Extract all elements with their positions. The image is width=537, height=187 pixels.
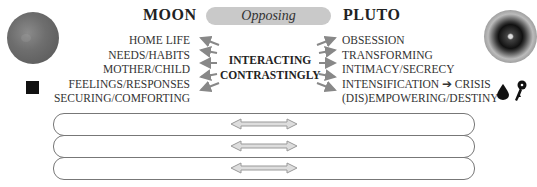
moon-icon xyxy=(7,12,59,64)
blank-bar xyxy=(53,113,475,136)
moon-keyword: MOTHER/CHILD xyxy=(54,62,190,77)
moon-keyword: SECURING/COMFORTING xyxy=(54,91,190,106)
opposing-label: Opposing xyxy=(206,7,331,25)
drop-icon xyxy=(497,84,509,100)
blank-bar xyxy=(53,135,475,158)
fan-arrows-icon xyxy=(195,33,345,105)
moon-keyword-list: HOME LIFE NEEDS/HABITS MOTHER/CHILD FEEL… xyxy=(54,33,190,106)
moon-keyword: FEELINGS/RESPONSES xyxy=(54,77,190,92)
key-icon xyxy=(513,80,527,102)
pluto-keyword: INTENSIFICATION ➔ CRISIS xyxy=(342,77,499,92)
pluto-keyword: TRANSFORMING xyxy=(342,48,499,63)
pluto-title: PLUTO xyxy=(343,6,400,24)
pluto-keyword: OBSESSION xyxy=(342,33,499,48)
moon-keyword: NEEDS/HABITS xyxy=(54,48,190,63)
pluto-keyword: (DIS)EMPOWERING/DESTINY xyxy=(342,91,499,106)
double-arrow-icon xyxy=(229,162,299,174)
moon-title: MOON xyxy=(143,6,197,24)
double-arrow-icon xyxy=(229,118,299,130)
moon-keyword: HOME LIFE xyxy=(54,33,190,48)
double-arrow-icon xyxy=(229,140,299,152)
blank-bar xyxy=(53,157,475,180)
pluto-keyword-list: OBSESSION TRANSFORMING INTIMACY/SECRECY … xyxy=(342,33,499,106)
black-square-icon xyxy=(26,81,39,94)
pluto-keyword: INTIMACY/SECRECY xyxy=(342,62,499,77)
